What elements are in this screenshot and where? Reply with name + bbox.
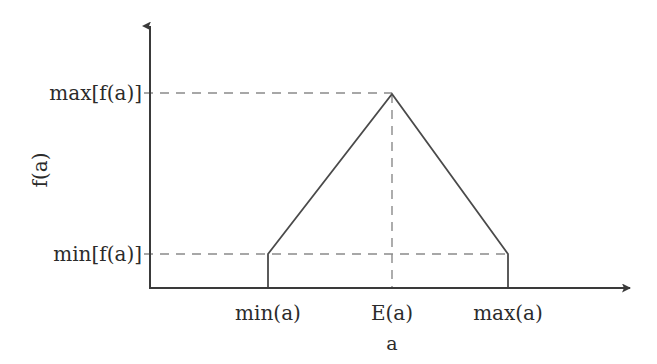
guide-lines (144, 93, 509, 289)
x-tick-label-min: min(a) (203, 303, 333, 323)
triangular-curve-path (268, 94, 508, 288)
y-axis-title: f(a) (30, 130, 50, 210)
triangular-function-figure: max[f(a)] min[f(a)] f(a) min(a) E(a) max… (0, 0, 657, 364)
x-axis-title: a (362, 334, 422, 353)
y-tick-label-max: max[f(a)] (10, 83, 142, 103)
x-tick-label-expected: E(a) (327, 303, 457, 323)
x-tick-label-max: max(a) (443, 303, 573, 323)
axes (150, 26, 630, 289)
y-tick-label-min: min[f(a)] (10, 244, 142, 264)
function-curve (268, 94, 508, 288)
